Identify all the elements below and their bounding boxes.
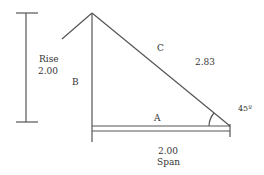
hypotenuse-value: 2.83 [195, 57, 215, 67]
span-title: Span [157, 157, 180, 167]
side-c-line [92, 13, 230, 126]
rise-title: Rise [39, 54, 59, 64]
rise-value: 2.00 [38, 66, 58, 76]
side-b-label: B [72, 77, 79, 87]
side-a-label: A [154, 113, 161, 123]
triangle-diagram [0, 0, 264, 175]
left-arm [62, 13, 92, 39]
side-c-label: C [157, 43, 164, 53]
angle-arc [209, 113, 214, 126]
span-value: 2.00 [158, 146, 178, 156]
angle-label: 45º [238, 104, 252, 114]
